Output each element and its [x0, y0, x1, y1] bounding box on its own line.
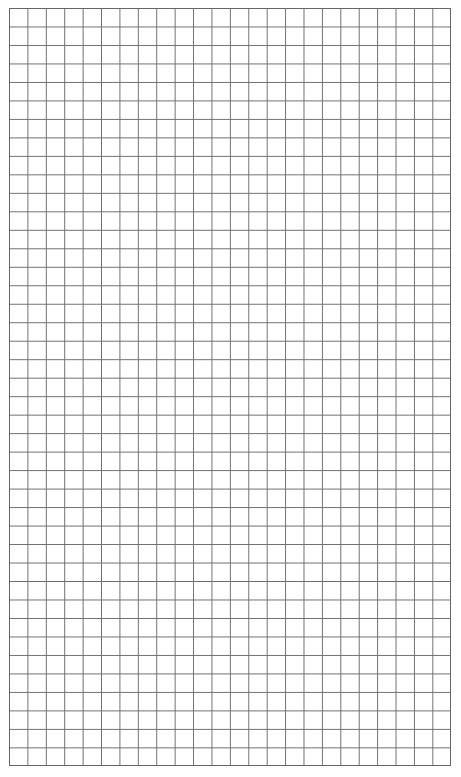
graph-paper-grid [9, 8, 451, 766]
